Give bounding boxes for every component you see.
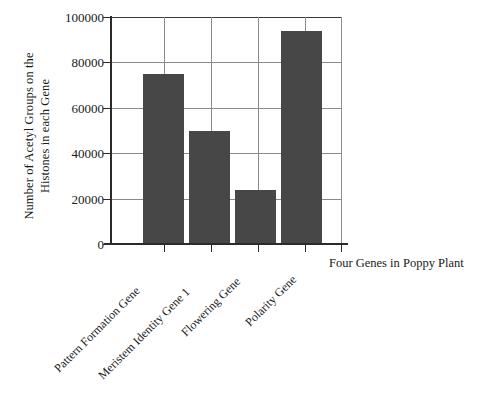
x-category-label-flowering-gene: Flowering Gene: [179, 275, 242, 338]
x-category-label-meristem-identity-gene-1: Meristem Identity Gene 1: [96, 286, 192, 382]
bar-chart: Number of Acetyl Groups on the Histones …: [0, 0, 503, 396]
x-category-label-polarity-gene: Polarity Gene: [243, 273, 298, 328]
x-axis-title: Four Genes in Poppy Plant: [329, 256, 464, 270]
x-axis-category-labels: Pattern Formation Gene Meristem Identity…: [0, 0, 503, 396]
x-category-label-pattern-formation-gene: Pattern Formation Gene: [52, 284, 142, 374]
